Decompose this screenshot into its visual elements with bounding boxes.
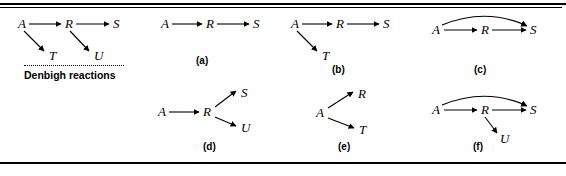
node-label-S: S xyxy=(241,85,248,100)
node-label-T: T xyxy=(322,48,330,63)
node-label-A: A xyxy=(17,16,26,31)
panel-c-caption: (c) xyxy=(474,64,486,75)
node-label-R: R xyxy=(357,86,366,101)
edge-R-to-U xyxy=(485,117,497,133)
node-label-S: S xyxy=(113,16,120,31)
panel-a-caption: (a) xyxy=(196,55,208,66)
node-label-A: A xyxy=(431,22,440,37)
node-label-A: A xyxy=(157,104,166,119)
node-label-S: S xyxy=(530,102,537,117)
denbigh-note: Denbigh reactions xyxy=(24,69,116,81)
node-label-R: R xyxy=(64,16,73,31)
panel-a-diagram: A R S xyxy=(158,14,278,36)
node-label-U: U xyxy=(500,131,511,146)
node-label-R: R xyxy=(335,16,344,31)
node-label-R: R xyxy=(202,104,211,119)
edge-A-to-T xyxy=(328,118,354,128)
panel-d-diagram: A R S U xyxy=(155,86,265,134)
node-label-R: R xyxy=(205,16,214,31)
note-separator xyxy=(24,65,124,66)
edge-R-to-S xyxy=(215,91,236,107)
node-label-A: A xyxy=(160,16,169,31)
panel-f-diagram: A R S U xyxy=(424,90,554,144)
node-label-T: T xyxy=(359,122,367,137)
reaction-scheme-figure: A R S T U Denbigh reactions A R S (a) A … xyxy=(0,0,566,176)
node-label-A: A xyxy=(290,16,299,31)
panel-b-caption: (b) xyxy=(332,64,345,75)
top-rule-thin xyxy=(0,7,562,8)
panel-f-caption: (f) xyxy=(473,141,483,152)
node-label-R: R xyxy=(480,22,489,37)
panel-b-diagram: A R S T xyxy=(288,14,408,62)
node-label-S: S xyxy=(383,16,390,31)
panel-e-caption: (e) xyxy=(338,141,350,152)
edge-A-to-R xyxy=(328,92,353,108)
node-label-A: A xyxy=(431,102,440,117)
top-rule-thick xyxy=(0,3,566,5)
edge-A-to-T xyxy=(297,31,317,51)
node-label-T: T xyxy=(49,48,57,63)
node-label-A: A xyxy=(315,105,324,120)
node-label-U: U xyxy=(94,48,105,63)
panel-denbigh-diagram: A R S T U xyxy=(10,14,150,62)
node-label-S: S xyxy=(253,16,260,31)
edge-R-to-U xyxy=(215,117,236,126)
node-label-U: U xyxy=(241,120,252,135)
edge-A-to-T xyxy=(24,31,44,51)
node-label-R: R xyxy=(480,102,489,117)
panel-c-diagram: A R S xyxy=(424,10,554,44)
panel-e-diagram: A R T xyxy=(300,86,400,136)
bottom-rule xyxy=(0,162,566,164)
edge-R-to-U xyxy=(70,31,89,51)
node-label-S: S xyxy=(530,22,537,37)
panel-d-caption: (d) xyxy=(203,141,216,152)
